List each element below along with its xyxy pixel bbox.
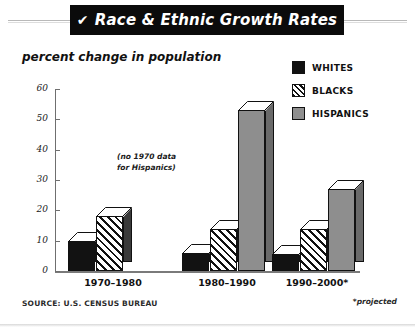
bar-front-face	[96, 216, 123, 271]
bar-front-face	[300, 229, 327, 271]
y-axis-tick-20	[55, 210, 60, 211]
y-axis-label-40: 40	[24, 144, 48, 154]
bar-front-face	[182, 253, 209, 271]
bar-front-face	[328, 189, 355, 271]
chart-page: ✔Race & Ethnic Growth Rates percent chan…	[0, 0, 415, 329]
bar-front-face	[238, 110, 265, 271]
y-axis-tick-30	[55, 180, 60, 181]
y-axis-label-10: 10	[24, 235, 48, 245]
x-axis-label-2: 1990–2000*	[250, 277, 384, 288]
source-note: SOURCE: U.S. CENSUS BUREAU	[22, 299, 158, 308]
y-axis-tick-10	[55, 241, 60, 242]
plot-area: 0102030405060 1970–19801980–19901990–200…	[0, 0, 415, 329]
projected-note: *projected	[353, 297, 397, 306]
y-axis-tick-40	[55, 150, 60, 151]
y-axis-tick-50	[55, 119, 60, 120]
bar-front-face	[68, 241, 95, 271]
page-edge-shadow	[0, 324, 415, 327]
y-axis-label-20: 20	[24, 204, 48, 214]
y-axis-label-0: 0	[24, 265, 48, 275]
y-axis-tick-60	[55, 89, 60, 90]
y-axis-label-60: 60	[24, 83, 48, 93]
bar-hisp-2	[328, 180, 364, 271]
no-data-annotation-line2: for Hispanics)	[117, 162, 176, 173]
bar-blacks-0	[96, 207, 132, 271]
no-data-annotation-line1: (no 1970 data	[117, 151, 176, 162]
bar-front-face	[210, 229, 237, 271]
y-axis-label-50: 50	[24, 113, 48, 123]
x-axis-line	[55, 271, 360, 273]
y-axis-tick-0	[55, 271, 60, 272]
bar-side-face	[355, 180, 364, 262]
bar-side-face	[265, 101, 274, 262]
no-data-annotation: (no 1970 data for Hispanics)	[117, 151, 176, 173]
y-axis-label-30: 30	[24, 174, 48, 184]
bar-front-face	[272, 254, 299, 271]
bar-hisp-1	[238, 101, 274, 271]
